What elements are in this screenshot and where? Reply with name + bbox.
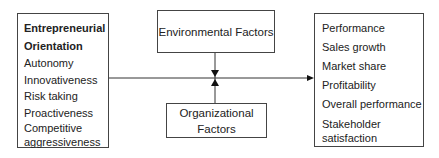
perf-item-market-share: Market share xyxy=(322,57,423,76)
environmental-factors-label: Environmental Factors xyxy=(158,24,273,40)
eo-item-autonomy: Autonomy xyxy=(24,55,108,72)
organizational-factors-line1: Organizational xyxy=(179,105,253,121)
eo-item-competitive: Competitive xyxy=(24,121,108,135)
arrow-head-right-icon xyxy=(307,75,314,81)
eo-title-line1: Entrepreneurial xyxy=(24,19,108,37)
eo-title-line2: Orientation xyxy=(24,37,108,55)
arrow-head-up-icon xyxy=(211,79,219,86)
perf-item-overall-performance: Overall performance xyxy=(322,95,423,114)
perf-item-stakeholder: Stakeholder xyxy=(322,117,423,131)
organizational-factors-line2: Factors xyxy=(197,121,235,137)
perf-item-profitability: Profitability xyxy=(322,76,423,95)
perf-item-performance: Performance xyxy=(322,19,423,38)
environmental-factors-box: Environmental Factors xyxy=(157,10,275,53)
perf-item-sales-growth: Sales growth xyxy=(322,38,423,57)
eo-item-innovativeness: Innovativeness xyxy=(24,72,108,89)
eo-item-aggressiveness: aggressiveness xyxy=(24,135,108,149)
entrepreneurial-orientation-box: Entrepreneurial Orientation Autonomy Inn… xyxy=(17,13,109,148)
arrow-head-down-icon xyxy=(211,70,219,77)
eo-item-proactiveness: Proactiveness xyxy=(24,105,108,122)
eo-item-risk-taking: Risk taking xyxy=(24,88,108,105)
organizational-factors-box: Organizational Factors xyxy=(166,103,267,138)
performance-box: Performance Sales growth Market share Pr… xyxy=(314,13,424,147)
perf-item-satisfaction: satisfaction xyxy=(322,131,423,145)
